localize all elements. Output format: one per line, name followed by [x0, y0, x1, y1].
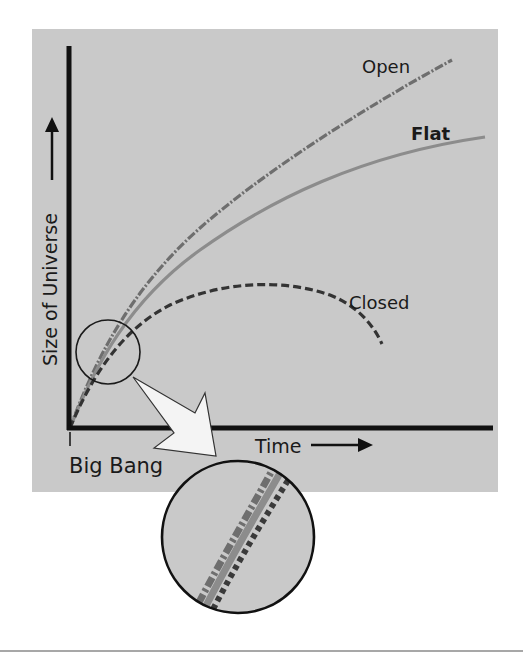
universe-expansion-diagram: Size of Universe Time Big Bang Open Flat… — [0, 0, 523, 655]
y-axis-label: Size of Universe — [39, 213, 61, 366]
magnified-inset — [162, 461, 314, 625]
origin-label: Big Bang — [69, 454, 163, 478]
closed-label: Closed — [349, 292, 409, 313]
x-axis-label: Time — [254, 435, 302, 457]
open-label: Open — [362, 56, 410, 77]
y-axis-label-group: Size of Universe — [39, 213, 61, 366]
flat-label: Flat — [411, 123, 451, 144]
chart-panel — [32, 29, 498, 492]
